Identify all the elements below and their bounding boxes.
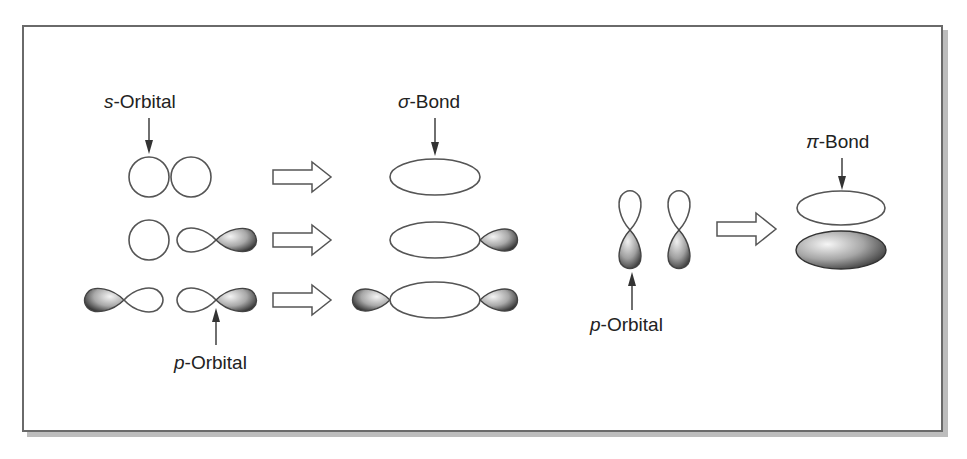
sigma-bond-pp-shape <box>353 282 518 318</box>
row-2-reactants <box>129 220 257 260</box>
s-orbital-shape <box>129 220 169 260</box>
p-orbital-label-left: p-Orbital <box>174 353 247 372</box>
orbital-diagram <box>0 0 967 459</box>
pi-bond-label: π-Bond <box>806 132 869 151</box>
row-3-reactants <box>85 288 257 312</box>
pi-bond-shape <box>796 191 886 269</box>
sigma-bond-label: σ-Bond <box>398 92 460 111</box>
sigma-bond-ss-shape <box>390 159 480 195</box>
p-orbital-white-lobe <box>177 228 216 252</box>
s-orbital-label: s-Orbital <box>104 92 176 111</box>
s-orbital-shape <box>171 157 211 197</box>
p-orbital-white-lobe <box>177 288 216 312</box>
p-orbital-shaded-lobe <box>216 228 257 251</box>
p-orbital-label-right: p-Orbital <box>590 315 663 334</box>
row-1-reactants <box>129 157 211 197</box>
sigma-bond-sp-shape <box>390 222 518 258</box>
s-orbital-shape <box>129 157 169 197</box>
p-orbital-shaded-lobe <box>85 288 125 311</box>
reaction-arrow-icon <box>273 162 776 315</box>
p-orbital-vertical-pair <box>619 191 690 269</box>
p-orbital-white-lobe <box>124 288 163 312</box>
p-orbital-shaded-lobe <box>216 288 257 311</box>
